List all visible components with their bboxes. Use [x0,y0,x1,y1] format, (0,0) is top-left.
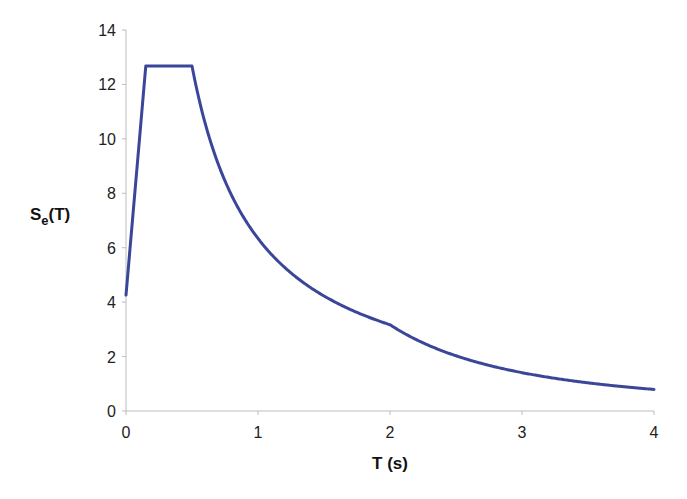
x-tick-label: 0 [122,424,131,441]
y-tick-label: 14 [98,22,116,39]
x-tick-label: 2 [386,424,395,441]
x-tick-label: 1 [254,424,263,441]
x-tick-label: 3 [518,424,527,441]
x-ticks: 01234 [122,411,659,441]
x-axis-title: T (s) [372,454,408,473]
y-tick-label: 0 [107,403,116,420]
y-tick-label: 8 [107,185,116,202]
spectrum-line [126,66,654,390]
y-tick-label: 4 [107,294,116,311]
y-tick-label: 12 [98,76,116,93]
y-tick-label: 10 [98,131,116,148]
response-spectrum-chart: 02468101214 01234 T (s) Se(T) [0,0,687,499]
y-axis-title: Se(T) [30,205,70,228]
axes: 02468101214 01234 [98,22,658,441]
y-tick-label: 6 [107,240,116,257]
x-tick-label: 4 [650,424,659,441]
y-tick-label: 2 [107,349,116,366]
y-ticks: 02468101214 [98,22,126,420]
